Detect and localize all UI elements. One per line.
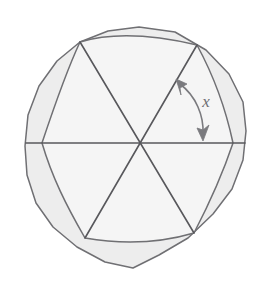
angle-label-x: x bbox=[201, 92, 210, 111]
geometry-canvas: x bbox=[0, 0, 274, 284]
geometry-figure: x bbox=[0, 0, 274, 284]
